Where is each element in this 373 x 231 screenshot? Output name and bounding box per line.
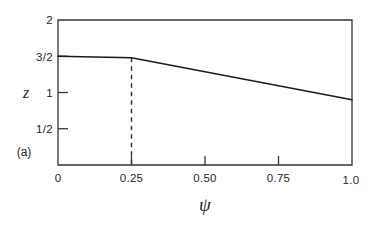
figure-panel-a: 2 3/2 1 1/2 0 0.25 0.50 0.75 1.0 z ψ (a) xyxy=(0,0,373,231)
x-tick-label-025: 0.25 xyxy=(120,172,144,184)
data-curve-z-of-psi xyxy=(58,56,352,100)
y-tick-label-three-halves: 3/2 xyxy=(36,51,53,63)
y-tick-label-2: 2 xyxy=(46,14,53,26)
y-axis-title: z xyxy=(22,84,30,101)
plot-canvas: 2 3/2 1 1/2 0 0.25 0.50 0.75 1.0 z ψ (a) xyxy=(0,0,373,231)
x-tick-label-10: 1.0 xyxy=(343,174,360,186)
x-tick-label-050: 0.50 xyxy=(193,172,217,184)
x-tick-label-075: 0.75 xyxy=(267,172,291,184)
x-axis-title: ψ xyxy=(199,194,212,215)
y-tick-label-one-half: 1/2 xyxy=(36,123,53,135)
plot-frame xyxy=(58,20,352,165)
y-axis-ticks xyxy=(58,56,68,129)
panel-label: (a) xyxy=(17,145,32,159)
y-tick-label-1: 1 xyxy=(46,87,53,99)
x-tick-label-0: 0 xyxy=(55,172,62,184)
x-axis-ticks xyxy=(132,156,279,165)
